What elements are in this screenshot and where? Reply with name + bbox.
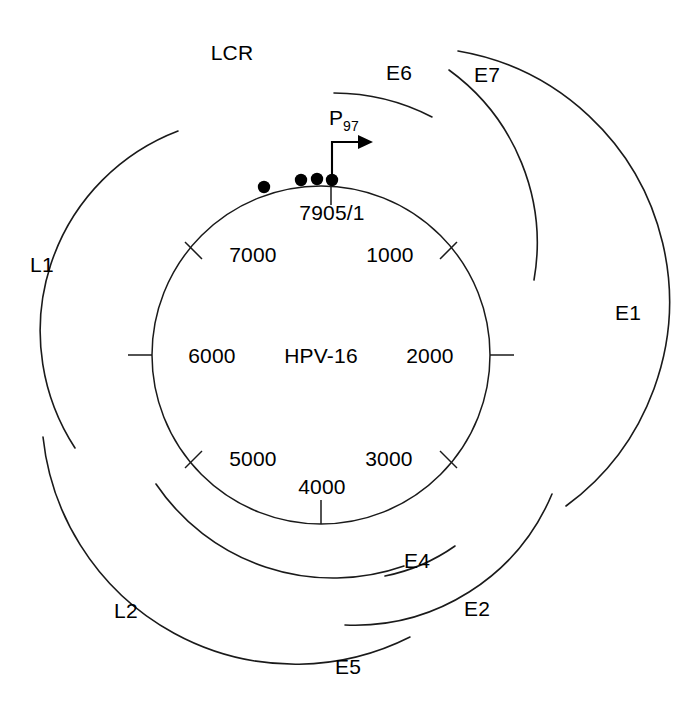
region-label-e7: E7: [474, 63, 500, 86]
genome-map-svg: HPV-16 7905/1 P 97 1000 2000 3000 4000 5…: [0, 0, 676, 718]
promoter-label: P 97: [329, 106, 359, 134]
coordinate-label-5000: 5000: [229, 447, 277, 470]
dot-marker: [295, 174, 307, 186]
promoter-name: P: [329, 106, 343, 129]
region-label-l2: L2: [114, 599, 138, 622]
region-label-e6: E6: [386, 61, 412, 84]
region-label-lcr: LCR: [211, 41, 254, 64]
region-label-e4: E4: [404, 549, 430, 572]
arc-e2: [345, 494, 552, 625]
arrow-head-icon: [358, 135, 373, 149]
coordinate-label-6000: 6000: [188, 344, 236, 367]
center-label: HPV-16: [284, 344, 358, 367]
coordinate-label-7000: 7000: [229, 243, 277, 266]
arc-e6: [334, 93, 432, 117]
dot-marker: [311, 173, 323, 185]
region-label-e2: E2: [464, 597, 490, 620]
arc-l2: [43, 437, 410, 664]
dot-marker: [258, 181, 270, 193]
region-label-l1: L1: [30, 253, 54, 276]
arc-e7: [449, 70, 537, 280]
region-label-e1: E1: [615, 301, 641, 324]
coordinate-label-group: 1000 2000 3000 4000 5000 6000 7000: [188, 243, 454, 498]
coordinate-label-3000: 3000: [365, 447, 413, 470]
arc-e5: [156, 484, 404, 578]
promoter-subscript: 97: [343, 118, 359, 134]
origin-label: 7905/1: [299, 201, 364, 224]
dot-marker-group: [258, 173, 338, 193]
coordinate-label-4000: 4000: [298, 475, 346, 498]
coordinate-label-1000: 1000: [366, 243, 414, 266]
promoter-arrow-icon: [332, 135, 373, 182]
arc-e1: [458, 51, 669, 506]
genome-map-figure: HPV-16 7905/1 P 97 1000 2000 3000 4000 5…: [0, 0, 676, 718]
coordinate-label-2000: 2000: [406, 344, 454, 367]
arc-l1: [40, 131, 178, 448]
region-label-e5: E5: [335, 655, 361, 678]
